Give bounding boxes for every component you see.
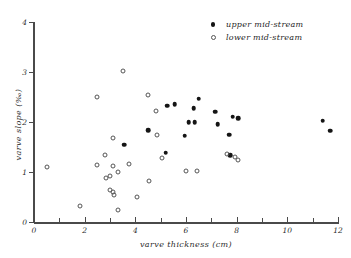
x-tick-label: 2 bbox=[82, 226, 87, 235]
chart-legend: upper mid-stream lower mid-stream bbox=[206, 18, 304, 44]
legend-label-upper-mid-stream: upper mid-stream bbox=[226, 20, 304, 29]
data-point-lower-mid-stream bbox=[184, 168, 189, 173]
x-tick bbox=[135, 217, 136, 222]
data-point-lower-mid-stream bbox=[110, 164, 115, 169]
legend-entry-lower-mid-stream: lower mid-stream bbox=[206, 31, 304, 44]
data-point-lower-mid-stream bbox=[95, 163, 100, 168]
x-tick-label: 10 bbox=[283, 226, 293, 235]
data-point-upper-mid-stream bbox=[213, 109, 218, 114]
data-point-lower-mid-stream bbox=[44, 164, 49, 169]
data-point-upper-mid-stream bbox=[186, 120, 191, 125]
y-axis-title: varve slope (‰) bbox=[14, 70, 23, 180]
x-tick-label: 6 bbox=[184, 226, 189, 235]
data-point-lower-mid-stream bbox=[77, 203, 82, 208]
legend-entry-upper-mid-stream: upper mid-stream bbox=[206, 18, 304, 31]
x-tick bbox=[85, 217, 86, 222]
y-tick bbox=[29, 222, 34, 223]
y-tick bbox=[29, 122, 34, 123]
data-point-lower-mid-stream bbox=[153, 109, 158, 114]
y-tick-label: 4 bbox=[18, 18, 27, 27]
data-point-lower-mid-stream bbox=[115, 170, 120, 175]
y-tick-label: 0 bbox=[18, 218, 27, 227]
x-tick-minor bbox=[313, 218, 314, 222]
x-tick-minor bbox=[59, 218, 60, 222]
data-point-upper-mid-stream bbox=[146, 128, 151, 133]
x-tick bbox=[237, 217, 238, 222]
data-point-lower-mid-stream bbox=[235, 157, 240, 162]
data-point-lower-mid-stream bbox=[110, 136, 115, 141]
x-tick bbox=[186, 217, 187, 222]
x-tick-minor bbox=[211, 218, 212, 222]
data-point-upper-mid-stream bbox=[193, 120, 198, 125]
data-point-lower-mid-stream bbox=[159, 156, 164, 161]
y-tick bbox=[29, 72, 34, 73]
data-point-upper-mid-stream bbox=[182, 133, 187, 138]
data-point-upper-mid-stream bbox=[163, 150, 168, 155]
open-circle-icon bbox=[206, 35, 220, 40]
data-point-lower-mid-stream bbox=[115, 207, 120, 212]
y-tick bbox=[29, 22, 34, 23]
x-tick-minor bbox=[110, 218, 111, 222]
x-tick-label: 12 bbox=[333, 226, 343, 235]
data-point-lower-mid-stream bbox=[154, 132, 159, 137]
data-point-lower-mid-stream bbox=[102, 153, 107, 158]
x-tick-label: 4 bbox=[133, 226, 138, 235]
x-tick-minor bbox=[262, 218, 263, 222]
data-point-lower-mid-stream bbox=[147, 178, 152, 183]
data-point-upper-mid-stream bbox=[196, 96, 201, 101]
data-point-lower-mid-stream bbox=[195, 169, 200, 174]
data-point-lower-mid-stream bbox=[108, 174, 113, 179]
data-point-lower-mid-stream bbox=[127, 162, 132, 167]
data-point-lower-mid-stream bbox=[224, 151, 229, 156]
data-point-lower-mid-stream bbox=[134, 194, 139, 199]
data-point-upper-mid-stream bbox=[321, 118, 326, 123]
x-tick bbox=[287, 217, 288, 222]
data-point-upper-mid-stream bbox=[172, 102, 177, 107]
data-point-upper-mid-stream bbox=[236, 116, 241, 121]
data-point-upper-mid-stream bbox=[165, 103, 170, 108]
data-point-lower-mid-stream bbox=[95, 95, 100, 100]
x-tick bbox=[34, 217, 35, 222]
x-tick bbox=[338, 217, 339, 222]
data-point-upper-mid-stream bbox=[231, 114, 236, 119]
data-point-upper-mid-stream bbox=[328, 128, 333, 133]
x-tick-minor bbox=[161, 218, 162, 222]
x-axis-title: varve thickness (cm) bbox=[140, 240, 232, 249]
x-axis-line bbox=[34, 222, 339, 224]
data-point-upper-mid-stream bbox=[191, 106, 196, 111]
plot-area: 024681012 01234 varve thickness (cm) var… bbox=[0, 0, 351, 258]
y-tick bbox=[29, 172, 34, 173]
data-point-lower-mid-stream bbox=[146, 93, 151, 98]
data-point-upper-mid-stream bbox=[215, 122, 220, 127]
x-tick-label: 8 bbox=[234, 226, 239, 235]
data-point-lower-mid-stream bbox=[111, 192, 116, 197]
scatter-chart-figure: 024681012 01234 varve thickness (cm) var… bbox=[0, 0, 351, 258]
legend-label-lower-mid-stream: lower mid-stream bbox=[226, 33, 302, 42]
data-point-upper-mid-stream bbox=[122, 142, 127, 147]
data-point-lower-mid-stream bbox=[121, 69, 126, 74]
data-point-upper-mid-stream bbox=[227, 132, 232, 137]
x-tick-label: 0 bbox=[32, 226, 37, 235]
filled-circle-icon bbox=[206, 22, 220, 27]
